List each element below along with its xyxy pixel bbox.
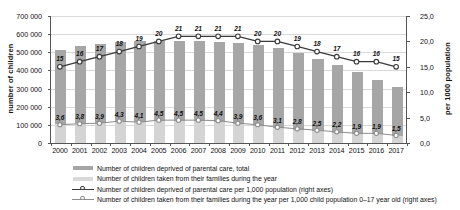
x-axis-label: 2002 bbox=[90, 146, 110, 155]
x-axis-label: 2011 bbox=[268, 146, 288, 155]
data-point-label: 21 bbox=[189, 25, 207, 32]
data-point-marker bbox=[216, 119, 220, 123]
data-point-label: 15 bbox=[51, 55, 69, 62]
data-point-label: 3,1 bbox=[268, 117, 286, 124]
data-point-marker bbox=[315, 49, 320, 54]
y-axis-left-tick-label: 500 000 bbox=[16, 48, 42, 57]
x-axis-label: 2008 bbox=[208, 146, 228, 155]
x-axis-label: 2003 bbox=[109, 146, 129, 155]
data-point-marker bbox=[196, 118, 200, 122]
legend-label: Number of children deprived of parental … bbox=[97, 165, 249, 172]
y-axis-right-tick-label: 25,0 bbox=[420, 12, 434, 21]
data-point-label: 3,9 bbox=[90, 113, 108, 120]
y-axis-left-tick-label: 100 000 bbox=[16, 121, 42, 130]
y-axis-right-tickmark bbox=[407, 118, 410, 119]
data-point-label: 4,5 bbox=[150, 110, 168, 117]
data-point-label: 20 bbox=[150, 30, 168, 37]
chart-legend: Number of children deprived of parental … bbox=[72, 163, 452, 205]
x-axis-label: 2013 bbox=[307, 146, 327, 155]
y-axis-left-tick-label: 700 000 bbox=[16, 12, 42, 21]
y-axis-left-tick-label: 200 000 bbox=[16, 103, 42, 112]
data-point-marker bbox=[334, 54, 339, 59]
data-point-label: 4,1 bbox=[130, 112, 148, 119]
data-point-marker bbox=[374, 59, 379, 64]
data-point-label: 21 bbox=[209, 25, 227, 32]
legend-swatch-taken-icon bbox=[72, 174, 94, 184]
y-axis-left-tick-label: 300 000 bbox=[16, 85, 42, 94]
x-axis-label: 2017 bbox=[386, 146, 406, 155]
x-axis-label: 2007 bbox=[188, 146, 208, 155]
data-point-marker bbox=[58, 65, 63, 70]
legend-label: Number of children taken from their fami… bbox=[97, 196, 437, 203]
data-point-marker bbox=[137, 120, 141, 124]
data-point-label: 20 bbox=[249, 30, 267, 37]
data-point-label: 1,9 bbox=[367, 123, 385, 130]
data-point-marker bbox=[236, 34, 241, 39]
data-point-marker bbox=[354, 59, 359, 64]
legend-swatch-total-icon bbox=[72, 163, 94, 173]
y-axis-right-tick-label: 0,0 bbox=[420, 139, 430, 148]
data-point-label: 16 bbox=[71, 50, 89, 57]
data-point-marker bbox=[335, 130, 339, 134]
legend-item[interactable]: Number of children taken from their fami… bbox=[72, 174, 452, 184]
data-point-marker bbox=[78, 122, 82, 126]
data-point-label: 2,2 bbox=[328, 121, 346, 128]
data-point-label: 2,5 bbox=[308, 120, 326, 127]
y-axis-right-line bbox=[406, 16, 407, 144]
x-axis-label: 2015 bbox=[347, 146, 367, 155]
data-point-marker bbox=[77, 59, 82, 64]
data-point-label: 21 bbox=[229, 25, 247, 32]
x-axis-label: 2014 bbox=[327, 146, 347, 155]
y-axis-left-tick-label: 0 bbox=[38, 139, 42, 148]
legend-item[interactable]: Number of children deprived of parental … bbox=[72, 184, 452, 194]
data-point-marker bbox=[236, 121, 240, 125]
data-point-marker bbox=[117, 49, 122, 54]
data-point-marker bbox=[216, 34, 221, 39]
y-axis-right-tickmark bbox=[407, 143, 410, 144]
data-point-label: 19 bbox=[288, 35, 306, 42]
data-point-label: 3,8 bbox=[71, 113, 89, 120]
data-point-marker bbox=[394, 65, 399, 70]
data-point-marker bbox=[394, 133, 398, 137]
x-axis-label: 2006 bbox=[169, 146, 189, 155]
data-point-marker bbox=[275, 39, 280, 44]
data-point-marker bbox=[157, 118, 161, 122]
data-point-marker bbox=[97, 121, 101, 125]
data-point-label: 20 bbox=[268, 30, 286, 37]
x-axis-label: 2012 bbox=[287, 146, 307, 155]
data-point-label: 3,6 bbox=[51, 114, 69, 121]
data-point-label: 17 bbox=[328, 45, 346, 52]
data-point-label: 16 bbox=[367, 50, 385, 57]
data-point-marker bbox=[196, 34, 201, 39]
legend-line-light-icon bbox=[72, 195, 94, 205]
legend-item[interactable]: Number of children taken from their fami… bbox=[72, 195, 452, 205]
y-axis-left-ticks: 0100 000200 000300 000400 000500 000600 … bbox=[2, 0, 46, 210]
x-axis-label: 2004 bbox=[129, 146, 149, 155]
data-point-marker bbox=[176, 34, 181, 39]
data-point-label: 16 bbox=[348, 50, 366, 57]
y-axis-right-tick-label: 15,0 bbox=[420, 63, 434, 72]
x-axis-label: 2000 bbox=[50, 146, 70, 155]
y-axis-left-tick-label: 600 000 bbox=[16, 30, 42, 39]
legend-item[interactable]: Number of children deprived of parental … bbox=[72, 163, 452, 173]
data-point-marker bbox=[354, 131, 358, 135]
data-point-marker bbox=[156, 39, 161, 44]
data-point-label: 21 bbox=[170, 25, 188, 32]
data-point-marker bbox=[255, 39, 260, 44]
data-point-label: 19 bbox=[130, 35, 148, 42]
x-axis-label: 2001 bbox=[70, 146, 90, 155]
data-point-label: 18 bbox=[110, 40, 128, 47]
data-point-marker bbox=[58, 123, 62, 127]
data-point-label: 4,4 bbox=[209, 110, 227, 117]
data-point-marker bbox=[315, 128, 319, 132]
data-point-label: 17 bbox=[90, 45, 108, 52]
data-point-label: 3,9 bbox=[229, 113, 247, 120]
x-axis-label: 2010 bbox=[248, 146, 268, 155]
legend-line-dark-icon bbox=[72, 184, 94, 194]
legend-label: Number of children deprived of parental … bbox=[97, 186, 333, 193]
data-point-marker bbox=[97, 54, 102, 59]
data-point-label: 4,5 bbox=[189, 110, 207, 117]
x-axis-labels: 2000200120022003200420052006200720082009… bbox=[50, 146, 406, 158]
data-point-marker bbox=[295, 44, 300, 49]
y-axis-right-tickmark bbox=[407, 41, 410, 42]
